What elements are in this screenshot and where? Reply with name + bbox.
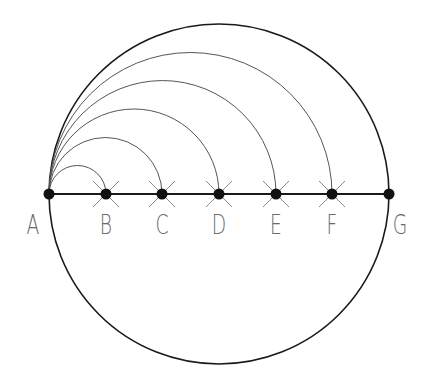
point-A xyxy=(44,189,55,200)
label-F: F xyxy=(327,210,338,240)
arc-A-C xyxy=(49,138,162,195)
point-E xyxy=(271,189,282,200)
label-A: A xyxy=(27,210,40,240)
point-G xyxy=(384,189,395,200)
diagram-canvas: ABCDEFG xyxy=(0,0,424,389)
label-B: B xyxy=(100,210,112,240)
label-E: E xyxy=(270,210,282,240)
point-F xyxy=(327,189,338,200)
label-G: G xyxy=(393,210,407,240)
arc-A-B xyxy=(49,166,106,195)
semicircle-arcs xyxy=(49,53,332,195)
point-labels: ABCDEFG xyxy=(27,210,408,240)
point-C xyxy=(157,189,168,200)
arc-A-E xyxy=(49,81,276,194)
label-C: C xyxy=(155,210,168,240)
arc-A-F xyxy=(49,53,332,195)
point-D xyxy=(214,189,225,200)
label-D: D xyxy=(212,210,226,240)
point-B xyxy=(101,189,112,200)
